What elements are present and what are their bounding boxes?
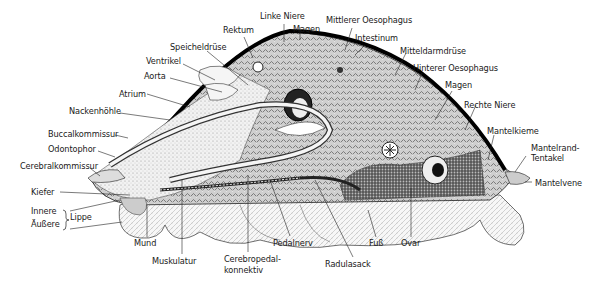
label-aorta: Aorta — [144, 71, 166, 81]
label-nackenhoehle: Nackenhöhle — [69, 106, 121, 116]
label-konnektiv: konnektiv — [224, 265, 263, 275]
label-pedalnerv: Pedalnerv — [273, 238, 313, 248]
label-rechte-niere: Rechte Niere — [464, 100, 515, 110]
label-ventrikel: Ventrikel — [146, 56, 181, 66]
label-mund: Mund — [134, 238, 156, 248]
label-cerebropedal: Cerebropedal- — [224, 254, 281, 264]
label-aeussere: Äußere — [31, 219, 60, 229]
label-tentakel: Tentakel — [531, 153, 564, 163]
label-fuss: Fuß — [369, 238, 383, 248]
label-atrium: Atrium — [119, 89, 146, 99]
label-kiefer: Kiefer — [31, 187, 54, 197]
label-odontophor: Odontophor — [48, 144, 96, 154]
label-lippe: Lippe — [70, 212, 92, 222]
label-linke-niere: Linke Niere — [260, 11, 305, 21]
label-ovar: Ovar — [401, 238, 420, 248]
label-cerebralkommissur: Cerebralkommissur — [20, 161, 98, 171]
label-mittlerer-oesophagus: Mittlerer Oesophagus — [326, 15, 412, 25]
label-rektum: Rektum — [223, 25, 254, 35]
label-muskulatur: Muskulatur — [152, 256, 196, 266]
lippe-brace — [63, 210, 69, 230]
label-intestinum: Intestinum — [355, 33, 398, 43]
label-mitteldarmdruese: Mitteldarmdrüse — [400, 46, 466, 56]
label-speicheldruese: Speicheldrüse — [170, 42, 226, 52]
snail-anatomy-diagram: Linke Niere Magen Mittlerer Oesophagus R… — [0, 0, 595, 287]
label-mantelkieme: Mantelkieme — [487, 126, 539, 136]
label-magen-right: Magen — [445, 80, 472, 90]
label-magen-top: Magen — [293, 24, 320, 34]
label-buccalkommissur: Buccalkommissur — [48, 129, 118, 139]
label-mantelrand: Mantelrand- — [531, 143, 579, 153]
label-hinterer-oesophagus: Hinterer Oesophagus — [413, 63, 498, 73]
label-mantelvene: Mantelvene — [535, 178, 582, 188]
label-innere: Innere — [31, 206, 56, 216]
label-radulasack: Radulasack — [325, 259, 371, 269]
